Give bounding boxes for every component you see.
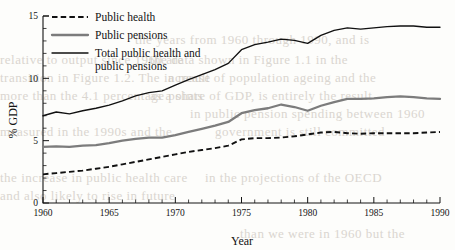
y-tick-label: 0 xyxy=(33,198,38,208)
y-tick-label: 15 xyxy=(29,11,39,21)
legend-label-2: Total public health and xyxy=(95,47,201,60)
x-tick-label: 1985 xyxy=(364,208,383,218)
legend-label-0: Public health xyxy=(95,11,156,23)
x-tick-label: 1970 xyxy=(166,208,185,218)
x-tick-label: 1980 xyxy=(298,208,317,218)
x-axis-title: Year xyxy=(231,234,253,248)
y-axis-title: % GDP xyxy=(6,101,20,138)
y-tick-label: 10 xyxy=(29,74,39,84)
legend-label-1: Public pensions xyxy=(95,29,168,42)
chart-page: the years from 1960 through 1990, and is… xyxy=(0,0,455,250)
chart-axes xyxy=(43,16,440,203)
line-chart: 0510151960196519701975198019851990 % GDP… xyxy=(0,0,455,250)
legend-label-2-line2: public pensions xyxy=(95,60,167,73)
chart-legend: Public healthPublic pensionsTotal public… xyxy=(52,11,201,73)
y-tick-label: 5 xyxy=(33,136,38,146)
x-tick-label: 1975 xyxy=(232,208,251,218)
series-line-0 xyxy=(43,132,440,174)
x-tick-label: 1960 xyxy=(34,208,53,218)
x-tick-label: 1990 xyxy=(431,208,450,218)
x-tick-label: 1965 xyxy=(100,208,119,218)
